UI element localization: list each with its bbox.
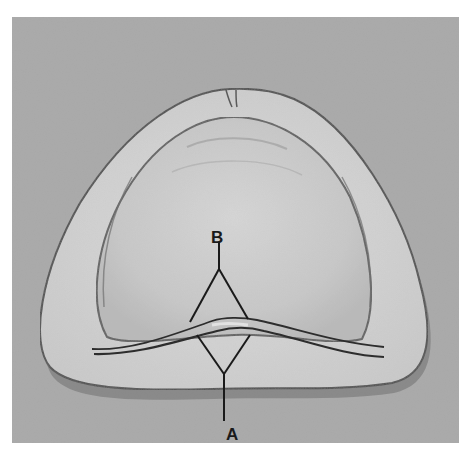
seal-highlight bbox=[212, 324, 248, 326]
cast-photograph bbox=[12, 17, 459, 443]
label-a: A bbox=[226, 426, 238, 443]
cast-illustration bbox=[12, 17, 459, 443]
label-b: B bbox=[211, 229, 223, 246]
